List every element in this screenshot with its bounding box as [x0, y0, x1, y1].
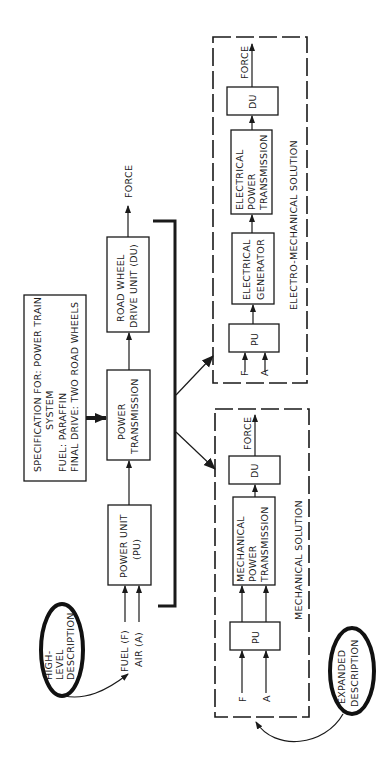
- mpt-label-1: MECHANICAL: [235, 516, 246, 582]
- mpt-label-3: TRANSMISSION: [259, 506, 270, 583]
- air-input-label: AIR (A): [133, 632, 144, 667]
- electro-mechanical-panel: ELECTRO-MECHANICAL SOLUTION PU F A ELECT…: [213, 37, 307, 383]
- exp-line-1: EXPANDED: [336, 650, 347, 704]
- power-unit-box: [108, 505, 151, 585]
- mech-a-label: A: [261, 695, 272, 702]
- force-label: FORCE: [123, 165, 134, 198]
- hl-line-1: HIGH-: [43, 651, 54, 680]
- to-electro-arrow: [176, 356, 213, 395]
- mech-force-label: FORCE: [242, 417, 253, 450]
- electro-force-label: FORCE: [239, 46, 250, 79]
- high-level-chain: POWER UNIT (PU) POWER TRANSMISSION ROAD …: [107, 165, 151, 672]
- mech-pu-label: PU: [250, 631, 261, 644]
- specification-box: SPECIFICATION FOR: POWER TRAIN SYSTEM FU…: [24, 295, 86, 481]
- power-train-diagram: SPECIFICATION FOR: POWER TRAIN SYSTEM FU…: [0, 0, 392, 769]
- pt-label-2: TRANSMISSION: [129, 378, 140, 455]
- hl-line-3: DESCRIPTION: [65, 612, 76, 680]
- mech-du-label: DU: [249, 463, 260, 478]
- fuel-input-label: FUEL (F): [119, 630, 130, 672]
- spec-line-1: SPECIFICATION FOR: POWER TRAIN: [32, 297, 43, 472]
- spec-line-3: FUEL: PARAFFIN: [57, 393, 68, 472]
- du-label-2: DRIVE UNIT (DU): [128, 244, 139, 328]
- du-label-1: ROAD WHEEL: [115, 254, 126, 322]
- spec-line-4: FINAL DRIVE: TWO ROAD WHEELS: [69, 302, 80, 472]
- group-bracket: [153, 221, 175, 606]
- hl-line-2: LEVEL: [54, 649, 65, 680]
- electro-f-label: F: [239, 370, 250, 376]
- pt-label-1: POWER: [116, 403, 127, 440]
- exp-line-2: DESCRIPTION: [349, 639, 360, 707]
- mech-f-label: F: [237, 696, 248, 702]
- electro-pu-label: PU: [249, 333, 260, 346]
- spec-line-2: SYSTEM: [44, 390, 55, 430]
- ept-label-2: POWER: [246, 173, 257, 210]
- mechanical-panel: MECHANICAL SOLUTION PU F A MECHANICAL PO…: [215, 409, 309, 717]
- electro-du-label: DU: [247, 94, 258, 109]
- generator-label-2: GENERATOR: [255, 239, 266, 300]
- high-level-description-ellipse: HIGH- LEVEL DESCRIPTION: [41, 604, 128, 697]
- ept-label-1: ELECTRICAL: [234, 149, 245, 210]
- electro-title: ELECTRO-MECHANICAL SOLUTION: [288, 140, 299, 310]
- pu-label-2: (PU): [131, 539, 142, 560]
- to-mechanical-arrow: [176, 432, 215, 469]
- mechanical-title: MECHANICAL SOLUTION: [293, 500, 304, 620]
- mpt-label-2: POWER: [247, 545, 258, 582]
- electro-a-label: A: [259, 369, 270, 376]
- ept-label-3: TRANSMISSION: [258, 134, 269, 211]
- pu-label-1: POWER UNIT: [118, 514, 129, 578]
- generator-label-1: ELECTRICAL: [241, 239, 252, 300]
